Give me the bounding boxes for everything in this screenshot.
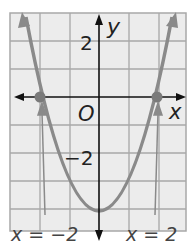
y-tick-label-neg2: −2 bbox=[64, 148, 93, 168]
origin-label: O bbox=[78, 104, 95, 125]
y-axis-label: y bbox=[107, 16, 120, 38]
graph bbox=[0, 0, 196, 250]
x-axis-label: x bbox=[169, 102, 181, 123]
root-label-left: x = −2 bbox=[11, 225, 78, 244]
root-label-right: x = 2 bbox=[126, 225, 177, 244]
x-intercept-point-left bbox=[35, 92, 46, 103]
x-intercept-point-right bbox=[152, 92, 163, 103]
y-tick-label-2: 2 bbox=[80, 33, 93, 53]
